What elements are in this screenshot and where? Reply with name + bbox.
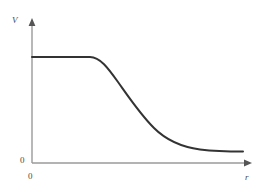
x-axis-origin-label: 0 — [28, 172, 33, 181]
y-axis-origin-label: 0 — [20, 156, 25, 165]
x-axis-label: r — [245, 173, 249, 182]
y-axis-label: V — [12, 16, 18, 25]
potential-curve — [32, 57, 243, 152]
plot-canvas — [0, 0, 268, 190]
potential-plot-figure: V r 0 0 — [0, 0, 268, 190]
y-axis-arrow-icon — [29, 18, 36, 26]
x-axis-arrow-icon — [244, 160, 252, 167]
